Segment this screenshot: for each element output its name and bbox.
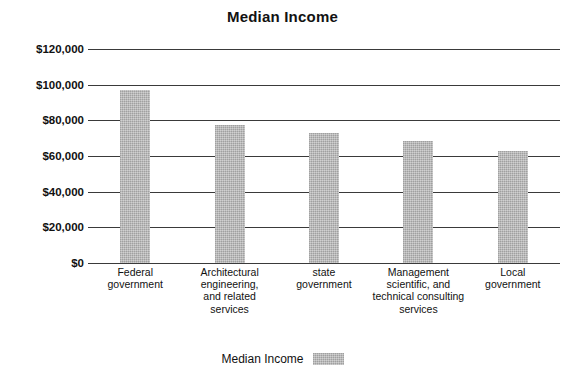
gridline — [88, 120, 560, 121]
x-tick-label: Localgovernment — [458, 266, 565, 290]
y-tick-label: $120,000 — [0, 43, 84, 55]
chart-title: Median Income — [0, 8, 565, 25]
chart-legend: Median Income — [0, 352, 565, 366]
y-tick-label: $80,000 — [0, 114, 84, 126]
bar-1 — [120, 90, 150, 263]
gridline — [88, 49, 560, 50]
y-tick-label: $20,000 — [0, 221, 84, 233]
y-tick-label: $0 — [0, 257, 84, 269]
bar-3 — [309, 133, 339, 263]
x-tick-label-line: government — [458, 278, 565, 290]
bar-5 — [498, 151, 528, 263]
x-tick-label-line: services — [174, 303, 284, 315]
legend-label: Median Income — [221, 352, 303, 366]
gridline — [88, 85, 560, 86]
y-tick-label: $100,000 — [0, 79, 84, 91]
y-tick-label: $60,000 — [0, 150, 84, 162]
bar-2 — [215, 125, 245, 263]
x-tick-label-line: Local — [458, 266, 565, 278]
x-tick-label-line: technical consulting — [363, 290, 473, 302]
x-tick-label-line: services — [363, 303, 473, 315]
gridline — [88, 263, 560, 264]
x-tick-label-line: and related — [174, 290, 284, 302]
median-income-bar-chart: Median Income $120,000$100,000$80,000$60… — [0, 0, 565, 376]
x-axis: FederalgovernmentArchitecturalengineerin… — [88, 266, 560, 326]
bar-4 — [403, 141, 433, 263]
y-axis: $120,000$100,000$80,000$60,000$40,000$20… — [0, 49, 84, 263]
plot-area — [88, 49, 560, 263]
legend-swatch-median-income — [313, 353, 344, 365]
y-tick-label: $40,000 — [0, 186, 84, 198]
